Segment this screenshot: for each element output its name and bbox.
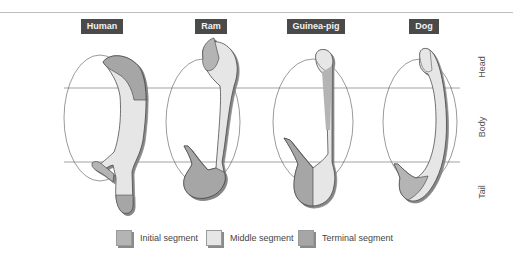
ram-epididymis <box>166 38 240 198</box>
region-label-body: Body <box>477 107 487 147</box>
legend-label: Initial segment <box>140 233 198 243</box>
guinea-pig-epididymis <box>273 49 353 206</box>
region-label-tail: Tail <box>477 172 487 212</box>
legend-item-terminal: Terminal segment <box>298 230 393 246</box>
human-epididymis <box>64 55 146 213</box>
middle-segment-swatch-icon <box>206 230 222 246</box>
terminal-segment-swatch-icon <box>298 230 314 246</box>
legend-label: Terminal segment <box>322 233 393 243</box>
legend-label: Middle segment <box>230 233 294 243</box>
legend: Initial segment Middle segment Terminal … <box>0 230 513 252</box>
initial-segment-swatch-icon <box>116 230 132 246</box>
legend-item-middle: Middle segment <box>206 230 294 246</box>
epididymis-diagram <box>0 0 513 263</box>
legend-item-initial: Initial segment <box>116 230 198 246</box>
dog-epididymis <box>383 48 457 201</box>
region-label-head: Head <box>477 47 487 87</box>
